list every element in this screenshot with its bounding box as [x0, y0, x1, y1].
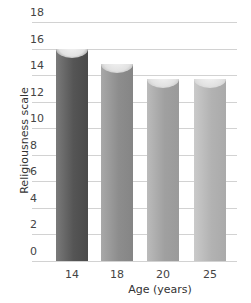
y-tick-label: 2 [30, 219, 54, 231]
gridline [32, 22, 237, 23]
y-tick-label: 16 [30, 34, 54, 46]
y-tick-label: 12 [30, 87, 54, 99]
bar-age-18 [101, 64, 133, 261]
bar-cap [194, 79, 226, 88]
y-tick-label: 8 [30, 140, 54, 152]
y-axis-label: Religiousness scale [18, 81, 31, 201]
x-axis-label: Age (years) [100, 283, 220, 296]
y-tick-label: 0 [30, 246, 54, 258]
x-tick-label: 18 [101, 268, 133, 281]
y-tick-label: 18 [30, 7, 54, 19]
bar-age-14 [56, 49, 88, 261]
gridline [32, 261, 237, 262]
y-tick-label: 4 [30, 193, 54, 205]
bar-age-25 [194, 79, 226, 261]
y-tick-label: 10 [30, 113, 54, 125]
religiousness-bar-chart: 024681012141618 Religiousness scale 1418… [0, 0, 251, 303]
x-tick-label: 20 [147, 268, 179, 281]
bar-cap [101, 64, 133, 73]
y-tick-label: 14 [30, 60, 54, 72]
bar-age-20 [147, 79, 179, 261]
y-tick-label: 6 [30, 166, 54, 178]
bar-cap [147, 79, 179, 88]
x-tick-label: 25 [194, 268, 226, 281]
x-tick-label: 14 [56, 268, 88, 281]
bar-cap [56, 49, 88, 58]
